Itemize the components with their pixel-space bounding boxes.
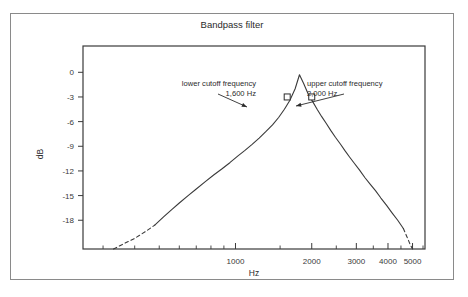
upper-cutoff-annotation-line1: upper cutoff frequency [307,79,383,88]
response-curve [155,75,404,229]
annotations-group: lower cutoff frequency1,600 Hzupper cuto… [182,79,383,107]
y-tick-label: -6 [67,118,75,127]
x-tick-label: 1000 [227,257,245,266]
upper-cutoff-annotation-line2: 2,000 Hz [307,89,338,98]
y-tick-label: -3 [67,93,75,102]
response-curve [114,225,155,249]
lower-cutoff-annotation-arrowhead [241,103,247,107]
y-axis-ticks: 0-3-6-9-12-15-18 [62,68,83,225]
plot-area-border [83,46,425,249]
lower-cutoff-marker [284,94,290,100]
response-curve [403,228,412,249]
x-tick-label: 2000 [303,257,321,266]
bandpass-filter-chart: Bandpass filter 0-3-6-9-12-15-18 1000200… [11,14,453,279]
y-tick-label: -9 [67,142,75,151]
y-tick-label: -18 [62,216,74,225]
y-tick-label: -12 [62,167,74,176]
y-tick-label: 0 [70,68,75,77]
x-axis-ticks: 10002000300040005000 [227,243,422,266]
plot-frame [83,46,425,249]
x-axis-title: Hz [249,268,259,278]
y-axis-title: dB [35,148,45,159]
figure-border: Bandpass filter 0-3-6-9-12-15-18 1000200… [10,13,454,280]
x-tick-label: 4000 [379,257,397,266]
x-tick-label: 5000 [404,257,422,266]
x-tick-label: 3000 [347,257,365,266]
data-series-group [114,75,413,249]
y-tick-label: -15 [62,192,74,201]
chart-title: Bandpass filter [201,19,264,30]
lower-cutoff-annotation-line1: lower cutoff frequency [182,79,256,88]
lower-cutoff-annotation-line2: 1,600 Hz [226,89,257,98]
